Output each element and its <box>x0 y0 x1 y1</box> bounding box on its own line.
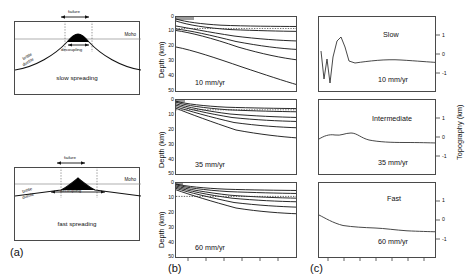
ytick-b-top-40: 40 <box>160 72 174 78</box>
ytick-c-bot-0: 0 <box>442 216 456 222</box>
slow-spreading-title: slow spreading <box>15 74 139 81</box>
ytick-b-mid-40: 40 <box>160 156 174 162</box>
rate-label-c-slow: 10 mm/yr <box>378 75 408 84</box>
fast-spreading-section <box>15 168 141 242</box>
class-label-fast: Fast <box>387 194 401 203</box>
moho-label-slow: Moho <box>125 32 137 37</box>
ytick-c-top-1: 1 <box>442 32 456 38</box>
yaxis-ticks-c-slow <box>436 16 441 92</box>
yaxis-ticks-c-intermediate <box>436 99 441 175</box>
ytick-b-top-30: 30 <box>160 57 174 63</box>
plot-b-35mmyr <box>175 99 297 175</box>
plot-c-slow <box>318 16 436 92</box>
ytick-b-top-50: 50 <box>160 87 174 93</box>
cartoon-fast-spreading: Moho decoupling brittle ductile fast spr… <box>14 167 140 241</box>
plot-b-10mmyr <box>175 16 297 92</box>
panel-letter-a: (a) <box>10 246 23 258</box>
ytick-c-top-0: 0 <box>442 51 456 57</box>
decoupling-label-slow: decoupling <box>61 47 82 52</box>
ytick-b-top-10: 10 <box>160 27 174 33</box>
ytick-c-bot-1: 1 <box>442 197 456 203</box>
ytick-b-mid-20: 20 <box>160 126 174 132</box>
ytick-b-bot-10: 10 <box>160 194 174 200</box>
rate-label-c-intermediate: 35 mm/yr <box>378 158 408 167</box>
ytick-b-bot-20: 20 <box>160 209 174 215</box>
rate-label-c-fast: 60 mm/yr <box>378 237 408 246</box>
plot-b-60mmyr <box>175 182 297 258</box>
failure-arrow-fast <box>56 160 86 166</box>
ytick-c-top-m1: -1 <box>442 70 456 76</box>
figure-root: Moho decoupling brittle ductile slow spr… <box>0 0 466 280</box>
ytick-b-top-0: 0 <box>160 13 174 19</box>
panel-letter-c: (c) <box>310 262 323 274</box>
axis-title-topography: Topography (km) <box>455 105 464 160</box>
ytick-b-top-20: 20 <box>160 42 174 48</box>
ytick-c-bot-m1: -1 <box>442 236 456 242</box>
ytick-b-mid-50: 50 <box>160 170 174 176</box>
class-label-slow: Slow <box>383 30 399 39</box>
moho-label-fast: Moho <box>125 177 137 182</box>
ytick-b-mid-30: 30 <box>160 141 174 147</box>
class-label-intermediate: Intermediate <box>372 114 412 123</box>
plot-c-intermediate <box>318 99 436 175</box>
failure-arrow-slow <box>60 14 90 20</box>
topography-curve-fast <box>319 183 436 258</box>
plot-c-fast <box>318 182 436 258</box>
rate-label-b-10mmyr: 10 mm/yr <box>195 78 225 87</box>
fast-spreading-title: fast spreading <box>15 220 139 227</box>
ytick-b-bot-0: 0 <box>160 179 174 185</box>
axis-title-depth-mid: Depth (km) <box>157 131 166 168</box>
cartoon-slow-spreading: Moho decoupling brittle ductile slow spr… <box>14 21 140 95</box>
ytick-b-mid-0: 0 <box>160 96 174 102</box>
ytick-c-mid-1: 1 <box>442 115 456 121</box>
ytick-b-bot-30: 30 <box>160 224 174 230</box>
rate-label-b-35mmyr: 35 mm/yr <box>195 160 225 169</box>
ytick-c-mid-0: 0 <box>442 134 456 140</box>
panel-letter-b: (b) <box>168 262 181 274</box>
ytick-b-bot-40: 40 <box>160 239 174 245</box>
yaxis-ticks-c-fast <box>436 182 441 258</box>
xaxis-ticks-panel-b <box>175 258 297 263</box>
ytick-c-mid-m1: -1 <box>442 153 456 159</box>
decoupling-label-fast: decoupling <box>60 188 81 193</box>
rate-label-b-60mmyr: 60 mm/yr <box>195 243 225 252</box>
ytick-b-mid-10: 10 <box>160 111 174 117</box>
xaxis-ticks-panel-c <box>318 258 436 263</box>
ytick-b-bot-50: 50 <box>160 253 174 259</box>
